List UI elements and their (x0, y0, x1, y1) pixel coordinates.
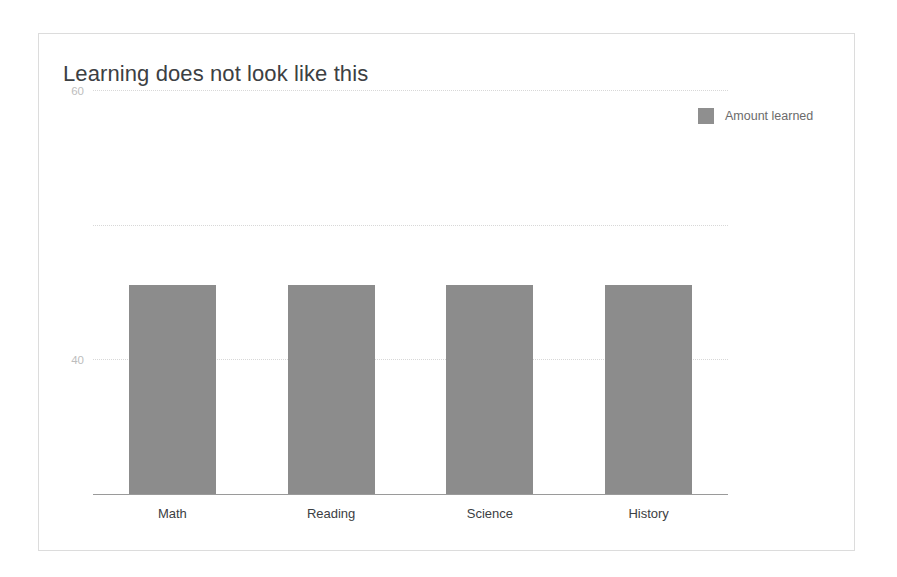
bars-layer (93, 90, 728, 494)
x-tick-label-math: Math (158, 506, 187, 521)
chart-title: Learning does not look like this (63, 61, 368, 87)
chart-card: Learning does not look like this Amount … (38, 33, 855, 551)
plot-area: 0204060 MathReadingScienceHistory (93, 90, 728, 494)
y-tick-label: 40 (71, 354, 84, 366)
bar-reading[interactable] (288, 285, 375, 494)
x-tick-label-science: Science (467, 506, 513, 521)
y-tick-label: 60 (71, 85, 84, 97)
xaxis-labels: MathReadingScienceHistory (93, 494, 728, 524)
legend-item-label: Amount learned (725, 108, 813, 124)
bar-history[interactable] (605, 285, 692, 494)
bar-math[interactable] (129, 285, 216, 494)
x-tick-label-reading: Reading (307, 506, 355, 521)
x-tick-label-history: History (628, 506, 668, 521)
bar-science[interactable] (446, 285, 533, 494)
